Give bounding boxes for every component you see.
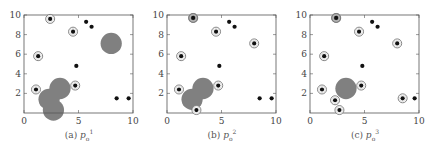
data-point bbox=[375, 25, 379, 29]
panel-a: 0510246810 (a) po1 bbox=[0, 0, 145, 148]
x-tick-label: 0 bbox=[307, 116, 313, 126]
ringed-point bbox=[250, 39, 259, 48]
cluster-blob bbox=[335, 78, 356, 99]
data-point bbox=[413, 96, 417, 100]
x-tick-label: 0 bbox=[21, 116, 27, 126]
data-point bbox=[89, 25, 93, 29]
data-point bbox=[370, 20, 374, 24]
data-point bbox=[127, 96, 131, 100]
data-point bbox=[84, 20, 88, 24]
caption-a: (a) po1 bbox=[24, 128, 134, 142]
ringed-point bbox=[177, 52, 186, 61]
y-tick-label: 4 bbox=[301, 69, 307, 79]
data-point bbox=[360, 64, 364, 68]
x-tick-label: 5 bbox=[219, 116, 225, 126]
y-tick-label: 2 bbox=[158, 88, 164, 98]
y-tick-label: 6 bbox=[301, 49, 307, 59]
y-tick-label: 4 bbox=[158, 69, 164, 79]
scatter-plot-a: 0510246810 bbox=[0, 0, 145, 148]
x-tick-label: 5 bbox=[76, 116, 82, 126]
caption-sub: o bbox=[86, 135, 90, 142]
cluster-blob bbox=[101, 33, 122, 54]
ringed-point bbox=[192, 106, 201, 115]
y-tick-label: 10 bbox=[153, 10, 165, 20]
caption-sup: 3 bbox=[375, 128, 379, 135]
ringed-point bbox=[31, 85, 40, 94]
y-tick-label: 4 bbox=[15, 69, 21, 79]
ringed-point bbox=[335, 106, 344, 115]
panel-b: 0510246810 (b) po2 bbox=[143, 0, 288, 148]
x-tick-label: 10 bbox=[413, 116, 425, 126]
ringed-point bbox=[214, 81, 223, 90]
data-point bbox=[227, 20, 231, 24]
ringed-point bbox=[188, 13, 198, 23]
ringed-point bbox=[355, 27, 364, 36]
ringed-point bbox=[212, 27, 221, 36]
caption-label: (c) bbox=[351, 130, 363, 140]
ringed-point bbox=[331, 96, 340, 105]
y-tick-label: 8 bbox=[158, 30, 164, 40]
panel-c: 0510246810 (c) po3 bbox=[286, 0, 431, 148]
caption-label: (a) bbox=[65, 130, 77, 140]
cluster-blob bbox=[43, 99, 64, 120]
ringed-point bbox=[320, 52, 329, 61]
y-tick-label: 2 bbox=[15, 88, 21, 98]
y-tick-label: 10 bbox=[10, 10, 22, 20]
data-point bbox=[74, 64, 78, 68]
y-tick-label: 8 bbox=[301, 30, 307, 40]
data-point bbox=[115, 96, 119, 100]
caption-label: (b) bbox=[208, 130, 221, 140]
ringed-point bbox=[317, 85, 326, 94]
data-point bbox=[217, 64, 221, 68]
y-tick-label: 2 bbox=[301, 88, 307, 98]
ringed-point bbox=[393, 39, 402, 48]
y-tick-label: 8 bbox=[15, 30, 21, 40]
x-tick-label: 10 bbox=[127, 116, 139, 126]
caption-sub: o bbox=[372, 135, 376, 142]
x-tick-label: 10 bbox=[270, 116, 282, 126]
x-tick-label: 0 bbox=[164, 116, 170, 126]
ringed-point bbox=[357, 81, 366, 90]
ringed-point bbox=[398, 94, 407, 103]
y-tick-label: 10 bbox=[296, 10, 308, 20]
caption-sup: 1 bbox=[89, 128, 93, 135]
y-tick-label: 6 bbox=[158, 49, 164, 59]
data-point bbox=[232, 25, 236, 29]
scatter-plot-b: 0510246810 bbox=[143, 0, 288, 148]
scatter-plot-c: 0510246810 bbox=[286, 0, 437, 148]
caption-sub: o bbox=[229, 135, 233, 142]
ringed-point bbox=[34, 52, 43, 61]
data-point bbox=[258, 96, 262, 100]
x-tick-label: 5 bbox=[362, 116, 368, 126]
ringed-point bbox=[174, 85, 183, 94]
ringed-point bbox=[331, 13, 341, 23]
y-tick-label: 6 bbox=[15, 49, 21, 59]
ringed-point bbox=[71, 81, 80, 90]
data-point bbox=[270, 96, 274, 100]
ringed-point bbox=[46, 14, 55, 23]
ringed-point bbox=[69, 27, 78, 36]
caption-b: (b) po2 bbox=[167, 128, 277, 142]
caption-sup: 2 bbox=[233, 128, 237, 135]
caption-c: (c) po3 bbox=[310, 128, 420, 142]
